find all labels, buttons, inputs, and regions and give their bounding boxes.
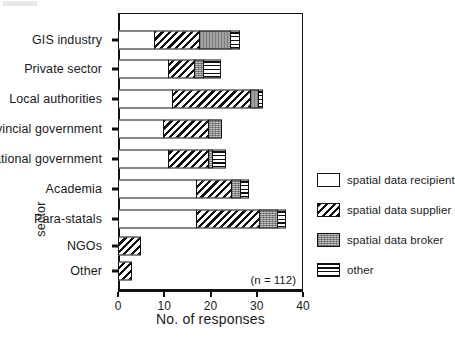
bar-segment-other [240, 180, 249, 199]
legend-item: spatial data recipient [317, 171, 445, 188]
bar-segment-broker [208, 120, 222, 139]
bar-segment-recipient [118, 120, 164, 139]
bar-segment-recipient [118, 180, 197, 199]
y-axis-tick-label: Local authorities [9, 92, 102, 106]
bar-segment-other [258, 90, 263, 109]
bar-row [118, 262, 132, 281]
legend-swatch-other [317, 263, 340, 277]
bar-segment-recipient [118, 31, 155, 50]
legend-label: other [347, 264, 374, 276]
x-axis-tick-mark [117, 292, 119, 297]
bar-segment-broker [259, 210, 278, 229]
bar-segment-supplier [154, 31, 200, 50]
y-axis-tick-label: Academia [46, 182, 102, 196]
bar-segment-supplier [196, 180, 233, 199]
bar-row [118, 150, 226, 169]
y-axis-tick-label: Private sector [24, 62, 102, 76]
bar-row [118, 120, 222, 139]
legend-label: spatial data supplier [347, 204, 451, 216]
x-axis-tick-mark [163, 292, 165, 297]
legend-label: spatial data broker [347, 234, 444, 246]
y-axis-tick-label: National government [0, 152, 102, 166]
bar-segment-broker [199, 31, 231, 50]
bar-segment-recipient [118, 60, 169, 79]
bar-segment-supplier [168, 150, 210, 169]
bar-segment-other [277, 210, 286, 229]
legend-item: spatial data supplier [317, 201, 445, 218]
x-axis-tick-mark [210, 292, 212, 297]
y-axis-tick-label: GIS industry [32, 33, 102, 47]
bar-segment-other [203, 60, 222, 79]
y-axis-category-labels: GIS industryPrivate sectorLocal authorit… [0, 13, 112, 270]
bar-row [118, 210, 286, 229]
bar-segment-supplier [172, 90, 251, 109]
bar-segment-recipient [118, 150, 169, 169]
bars-layer [118, 13, 303, 290]
chart-legend: spatial data recipientspatial data suppl… [317, 171, 445, 291]
y-axis-tick-label: Other [70, 264, 102, 278]
x-axis: 010203040 [118, 290, 303, 292]
bar-row [118, 31, 240, 50]
bar-segment-other [230, 31, 239, 50]
legend-swatch-supplier [317, 203, 340, 217]
bar-segment-recipient [118, 210, 197, 229]
x-axis-tick-mark [302, 292, 304, 297]
bar-segment-supplier [168, 60, 196, 79]
bar-segment-supplier [196, 210, 261, 229]
x-axis-title: No. of responses [118, 311, 303, 327]
bar-segment-recipient [118, 90, 174, 109]
bar-segment-supplier [118, 237, 141, 256]
bar-segment-other [212, 150, 226, 169]
bar-row [118, 180, 249, 199]
scan-artifact [3, 1, 37, 6]
y-axis-tick-label: NGOs [67, 239, 102, 253]
y-axis-tick-label: Para-statals [34, 212, 102, 226]
bar-row [118, 60, 221, 79]
bar-segment-supplier [118, 262, 132, 281]
legend-swatch-broker [317, 233, 340, 247]
y-axis-tick-label: Provincial government [0, 122, 102, 136]
x-axis-tick-mark [256, 292, 258, 297]
legend-item: spatial data broker [317, 231, 445, 248]
legend-swatch-recipient [317, 173, 340, 187]
bar-row [118, 237, 141, 256]
bar-row [118, 90, 263, 109]
legend-item: other [317, 261, 445, 278]
legend-label: spatial data recipient [347, 174, 455, 186]
bar-segment-supplier [163, 120, 209, 139]
